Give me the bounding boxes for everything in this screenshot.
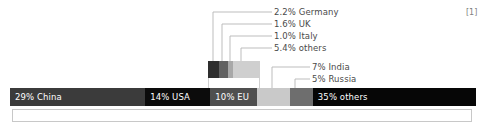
callout-label-uk: 1.6% UK: [274, 19, 311, 29]
bar-segment-india: [257, 88, 290, 106]
bar-segment-china: 29% China: [10, 88, 145, 106]
leader-line-russia: [295, 79, 310, 88]
bar-segment-usa: 14% USA: [145, 88, 210, 106]
leader-line-india: [272, 67, 310, 88]
callout-label-india: 7% India: [312, 62, 350, 72]
bar-segment-eu: 10% EU: [210, 88, 257, 106]
leader-line-germany: [213, 12, 272, 61]
bar-label-china: 29% China: [10, 92, 62, 102]
bar-label-eu: 10% EU: [210, 92, 249, 102]
callout-label-eu-others: 5.4% others: [274, 43, 326, 53]
stacked-bar-figure: 2.2% Germany 1.6% UK 1.0% Italy 5.4% oth…: [0, 0, 486, 127]
main-stacked-bar: 29% China 14% USA 10% EU 35% others: [10, 88, 476, 106]
leader-line-uk: [222, 24, 272, 61]
callout-label-russia: 5% Russia: [312, 74, 356, 84]
callout-label-italy: 1.0% Italy: [274, 31, 318, 41]
callout-label-germany: 2.2% Germany: [274, 7, 339, 17]
footer-outline-frame: [12, 109, 472, 122]
bar-segment-russia: [290, 88, 313, 106]
leader-line-eu-others: [241, 48, 272, 61]
bar-segment-others: 35% others: [313, 88, 476, 106]
eu-segment-others: [233, 61, 260, 78]
bar-label-others: 35% others: [313, 92, 368, 102]
eu-segment-uk: [219, 61, 227, 78]
reference-mark: [1]: [466, 8, 477, 17]
leader-line-italy: [230, 36, 272, 61]
eu-segment-germany: [208, 61, 219, 78]
bar-label-usa: 14% USA: [145, 92, 190, 102]
eu-breakdown-bar: [208, 61, 260, 78]
